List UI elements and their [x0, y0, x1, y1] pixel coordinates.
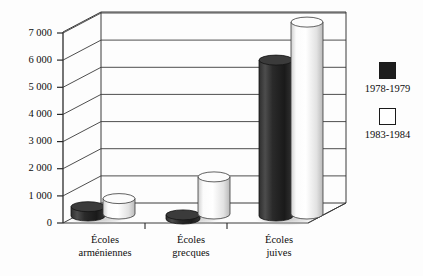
chart-plot-area: 7 000 6 000 5 000 4 000 3 000 2 000 1 00…	[0, 0, 423, 276]
bar-grecques-1978-1979[interactable]	[166, 210, 200, 224]
legend-item-1978-1979[interactable]: 1978-1979	[352, 62, 423, 94]
y-tick-3000: 3 000	[6, 136, 52, 147]
legend-swatch-dark-icon	[379, 62, 396, 79]
y-tick-1000: 1 000	[6, 191, 52, 202]
legend-item-1983-1984[interactable]: 1983-1984	[352, 108, 423, 140]
x-label-line1: Écoles	[91, 234, 119, 245]
y-axis-tick-labels: 7 000 6 000 5 000 4 000 3 000 2 000 1 00…	[0, 0, 52, 276]
y-tick-5000: 5 000	[6, 82, 52, 93]
chart-legend: 1978-1979 1983-1984	[352, 62, 423, 154]
legend-label-1978-1979: 1978-1979	[352, 83, 423, 94]
y-tick-4000: 4 000	[6, 109, 52, 120]
chart-page: 7 000 6 000 5 000 4 000 3 000 2 000 1 00…	[0, 0, 423, 276]
bar-armeniennes-1983-1984[interactable]	[103, 194, 135, 219]
y-tick-6000: 6 000	[6, 55, 52, 66]
bar-juives-1983-1984[interactable]	[291, 17, 323, 219]
bar-group-ecoles-grecques	[162, 172, 230, 226]
legend-label-1983-1984: 1983-1984	[352, 129, 423, 140]
legend-swatch-light-icon	[379, 108, 396, 125]
x-label-line1: Écoles	[265, 234, 293, 245]
y-tick-0: 0	[6, 218, 52, 229]
bar-juives-1978-1979[interactable]	[259, 55, 293, 221]
x-label-ecoles-juives: Écoles juives	[224, 233, 334, 259]
bar-armeniennes-1978-1979[interactable]	[71, 202, 105, 221]
x-label-line1: Écoles	[177, 234, 205, 245]
bar-group-ecoles-juives	[253, 17, 323, 226]
y-tick-2000: 2 000	[6, 163, 52, 174]
x-label-line2: juives	[224, 246, 334, 259]
bar-grecques-1983-1984[interactable]	[198, 172, 230, 219]
y-tick-7000: 7 000	[6, 28, 52, 39]
